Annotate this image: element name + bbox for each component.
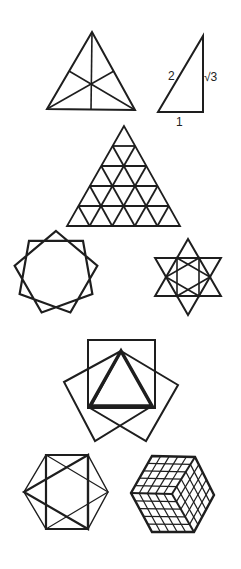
label-vertical-leg: √3 bbox=[204, 70, 218, 84]
subdivided-triangle bbox=[67, 126, 180, 226]
squares-and-triangle bbox=[64, 340, 178, 441]
hexagon-with-triangles bbox=[24, 455, 108, 529]
geometry-figures: 2 √3 1 bbox=[0, 0, 241, 569]
nine-pointed-star bbox=[15, 231, 98, 312]
right-triangle bbox=[158, 36, 203, 112]
label-hypotenuse: 2 bbox=[168, 69, 175, 83]
label-base-leg: 1 bbox=[176, 115, 183, 129]
triangle-with-medians bbox=[47, 32, 135, 110]
isometric-cube-grid bbox=[131, 456, 214, 532]
hexagram-with-inner-star bbox=[155, 239, 221, 315]
